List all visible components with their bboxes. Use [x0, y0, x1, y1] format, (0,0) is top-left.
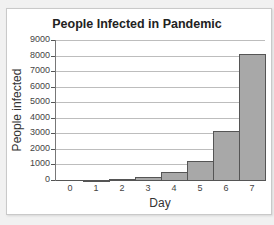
bar-day-6: [213, 131, 240, 181]
x-tick-label: 6: [216, 183, 236, 193]
x-tick-label: 1: [86, 183, 106, 193]
y-tick-label: 0: [20, 174, 50, 184]
gridline: [55, 40, 265, 41]
x-tick-label: 3: [138, 183, 158, 193]
y-tick-label: 7000: [20, 65, 50, 75]
gridline: [55, 87, 265, 88]
x-axis-label: Day: [140, 196, 180, 210]
gridline: [55, 102, 265, 103]
gridline: [55, 118, 265, 119]
bar-day-5: [187, 161, 214, 181]
gridline: [55, 71, 265, 72]
y-axis-label: People infected: [10, 65, 24, 155]
y-tick-label: 8000: [20, 50, 50, 60]
y-tick-label: 1000: [20, 158, 50, 168]
x-tick-label: 7: [242, 183, 262, 193]
y-tick-label: 6000: [20, 81, 50, 91]
gridline: [55, 56, 265, 57]
y-tick-label: 2000: [20, 143, 50, 153]
y-tick-label: 4000: [20, 112, 50, 122]
y-tick-label: 3000: [20, 127, 50, 137]
bar-day-7: [239, 54, 266, 181]
x-tick-label: 4: [164, 183, 184, 193]
y-axis: [55, 40, 56, 181]
y-tick-label: 5000: [20, 96, 50, 106]
x-tick-label: 5: [190, 183, 210, 193]
x-axis: [55, 180, 265, 181]
chart-title: People Infected in Pandemic: [0, 17, 274, 31]
y-tick-label: 9000: [20, 34, 50, 44]
x-tick-label: 0: [60, 183, 80, 193]
x-tick-label: 2: [112, 183, 132, 193]
